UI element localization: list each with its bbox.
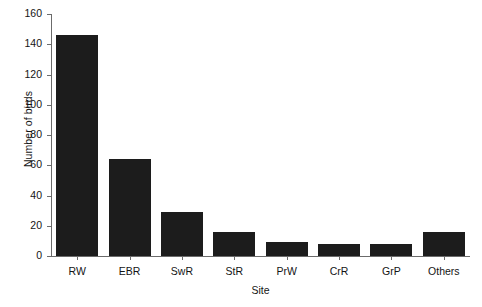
x-axis-tick-mark [234, 256, 235, 260]
x-axis-tick-label: PrW [261, 265, 313, 277]
y-axis-tick-mark [47, 75, 51, 76]
y-axis-tick-mark [47, 196, 51, 197]
x-axis-tick-label: SwR [156, 265, 208, 277]
x-axis-tick-label: EBR [103, 265, 155, 277]
x-axis-tick-mark [339, 256, 340, 260]
bar [318, 244, 360, 256]
x-axis-title: Site [51, 284, 470, 296]
y-axis-tick-mark [47, 256, 51, 257]
plot-area: 020406080100120140160 RWEBRSwRStRPrWCrRG… [51, 14, 470, 256]
bar [109, 159, 151, 256]
y-axis-tick-label: 100 [24, 98, 42, 110]
y-axis-tick-label: 20 [30, 219, 42, 231]
x-axis-tick-label: Others [418, 265, 470, 277]
y-axis-tick-label: 120 [24, 68, 42, 80]
y-axis-tick-label: 60 [30, 158, 42, 170]
x-axis-tick-label: StR [208, 265, 260, 277]
y-axis-tick-label: 0 [36, 249, 42, 261]
bar [370, 244, 412, 256]
x-axis-tick-mark [182, 256, 183, 260]
y-axis-tick-mark [47, 135, 51, 136]
bar [161, 212, 203, 256]
x-axis-tick-label: GrP [365, 265, 417, 277]
bar [56, 35, 98, 256]
y-axis-tick-mark [47, 165, 51, 166]
bar [423, 232, 465, 256]
x-axis-tick-label: RW [51, 265, 103, 277]
x-axis-tick-mark [130, 256, 131, 260]
y-axis-tick-mark [47, 105, 51, 106]
x-axis-tick-mark [77, 256, 78, 260]
y-axis-tick-label: 140 [24, 37, 42, 49]
y-axis-line [51, 14, 52, 256]
x-axis-tick-mark [287, 256, 288, 260]
x-axis-tick-mark [444, 256, 445, 260]
y-axis-tick-label: 80 [30, 128, 42, 140]
y-axis-tick-mark [47, 44, 51, 45]
x-axis-line [51, 256, 470, 257]
y-axis-tick-label: 40 [30, 189, 42, 201]
bar [266, 242, 308, 256]
x-axis-tick-mark [391, 256, 392, 260]
bar-chart-figure: Number of birds 020406080100120140160 RW… [0, 0, 482, 307]
y-axis-tick-label: 160 [24, 7, 42, 19]
y-axis-tick-mark [47, 14, 51, 15]
x-axis-tick-label: CrR [313, 265, 365, 277]
bar [213, 232, 255, 256]
y-axis-tick-mark [47, 226, 51, 227]
